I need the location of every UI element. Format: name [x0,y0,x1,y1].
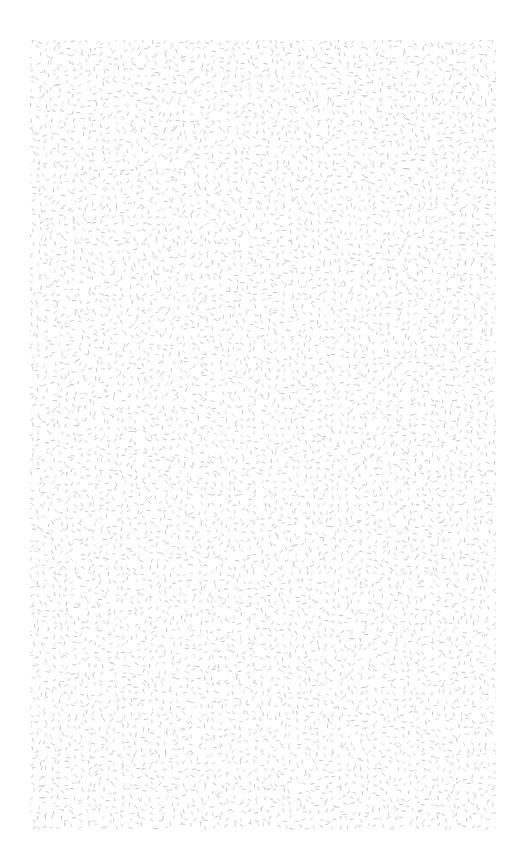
dash-texture-pattern [30,40,496,830]
texture-svg [30,40,496,830]
